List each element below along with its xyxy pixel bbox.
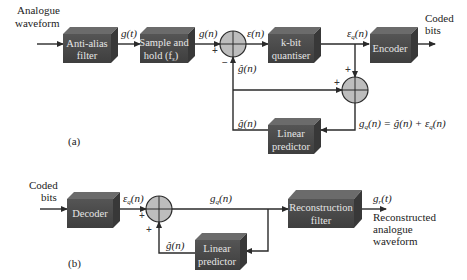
reconstruction-filter-block: Reconstruction filter — [288, 190, 362, 228]
svg-text:k-bit: k-bit — [281, 37, 301, 48]
output-label-reconstructed: Reconstructed — [373, 211, 436, 223]
svg-text:Anti-alias: Anti-alias — [66, 38, 107, 49]
input-label-coded: Coded — [29, 179, 58, 191]
output-label-bits: bits — [425, 24, 441, 36]
summer-b-left-plus: + — [139, 210, 145, 221]
summer-b-bottom-plus: + — [146, 224, 152, 235]
summer2-left-plus-sign: + — [334, 77, 340, 88]
output-label-analogue: analogue — [373, 223, 413, 235]
svg-text:predictor: predictor — [198, 256, 236, 267]
signal-eps-n: ε(n) — [247, 27, 264, 40]
signal-g-n: g(n) — [199, 27, 218, 40]
signal-gr-t: gr(t) — [373, 192, 392, 206]
equation-gq: gq(n) = ĝ(n) + εq(n) — [359, 117, 446, 131]
svg-text:filter: filter — [311, 215, 332, 226]
svg-text:filter: filter — [77, 50, 98, 61]
anti-alias-filter-block: Anti-alias filter — [63, 27, 118, 63]
output-label-waveform: waveform — [373, 235, 418, 247]
linear-predictor-b-block: Linear predictor — [195, 233, 247, 270]
wire-gq-to-predictor — [321, 103, 355, 130]
k-bit-quantiser-block: k-bit quantiser — [268, 27, 321, 63]
svg-text:Linear: Linear — [203, 243, 231, 254]
summer-b — [146, 196, 172, 222]
dpcm-diagram: Analogue waveform Anti-alias filter g(t)… — [0, 0, 467, 280]
signal-ghat-bottom: ĝ(n) — [238, 117, 257, 130]
input-label-bits: bits — [41, 191, 57, 203]
wire-gq-to-predictor-b — [246, 209, 268, 251]
svg-text:Encoder: Encoder — [373, 43, 408, 54]
output-label-coded: Coded — [425, 12, 454, 24]
input-label-analogue: Analogue — [17, 4, 60, 16]
summer1-minus-sign: − — [222, 57, 228, 68]
summer1-plus-sign: + — [212, 45, 218, 56]
part-b-label: (b) — [68, 257, 81, 270]
signal-ghat-top: ĝ(n) — [238, 62, 257, 75]
signal-g-t: g(t) — [121, 27, 137, 40]
part-a: Analogue waveform Anti-alias filter g(t)… — [15, 4, 454, 154]
part-b: Coded bits Decoder εq(n) + + gq(n) — [29, 179, 436, 270]
encoder-block: Encoder — [370, 27, 418, 63]
summer-1 — [220, 31, 246, 57]
svg-text:quantiser: quantiser — [272, 50, 311, 61]
input-label-waveform: waveform — [15, 17, 60, 29]
signal-ghat-b: ĝ(n) — [166, 239, 185, 252]
linear-predictor-a-block: Linear predictor — [268, 118, 321, 154]
svg-text:Decoder: Decoder — [72, 208, 108, 219]
summer-2 — [342, 77, 368, 103]
svg-text:Sample and: Sample and — [139, 37, 189, 48]
decoder-block: Decoder — [67, 192, 120, 228]
sample-and-hold-block: Sample and hold (fs) — [139, 27, 195, 63]
signal-eps-q-n: εq(n) — [347, 27, 368, 41]
summer2-top-plus-sign: + — [345, 64, 351, 75]
svg-text:Linear: Linear — [277, 128, 305, 139]
part-a-label: (a) — [68, 135, 81, 148]
signal-gq-b: gq(n) — [210, 192, 232, 206]
svg-text:predictor: predictor — [272, 141, 310, 152]
signal-eps-q-b: εq(n) — [123, 192, 144, 206]
svg-text:Reconstruction: Reconstruction — [289, 202, 353, 213]
